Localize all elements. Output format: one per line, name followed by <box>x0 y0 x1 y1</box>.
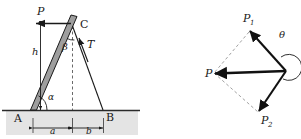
dashed-side-P-to-P2 <box>214 73 258 112</box>
label-tension-T: T <box>87 38 96 51</box>
label-point-A: A <box>13 112 23 125</box>
resultant-vector-P <box>215 71 286 74</box>
label-force-P: P <box>36 5 45 18</box>
label-angle-alpha: α <box>48 92 54 102</box>
label-component-P2: P 2 <box>260 114 273 129</box>
label-component-P1-subscript: 1 <box>250 19 254 27</box>
left-diagram-group: P h β α T A B C a b <box>2 5 140 136</box>
figure-canvas: P h β α T A B C a b P <box>0 0 301 139</box>
label-height-h: h <box>32 46 38 57</box>
label-point-B: B <box>106 111 114 124</box>
label-dim-b: b <box>86 126 92 136</box>
dashed-side-P1-to-P <box>214 32 249 73</box>
label-resultant-P: P <box>204 67 213 80</box>
label-component-P2-subscript: 2 <box>267 121 273 129</box>
label-component-P1: P 1 <box>242 12 254 27</box>
label-point-C: C <box>80 18 88 31</box>
label-dim-a: a <box>50 126 55 136</box>
ground-shaded-region <box>6 111 138 135</box>
diagram-svg: P h β α T A B C a b P <box>0 0 301 139</box>
vector-P2 <box>259 71 286 111</box>
right-diagram-group: P P 1 P 2 θ <box>204 12 301 129</box>
label-angle-theta: θ <box>279 29 285 40</box>
label-angle-beta: β <box>61 41 68 52</box>
angle-arc-beta <box>67 39 74 41</box>
